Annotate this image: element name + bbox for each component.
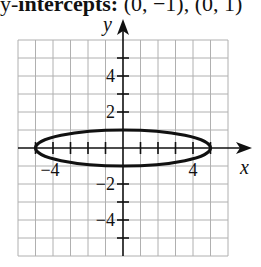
x-axis-label: x — [239, 156, 249, 178]
y-axis-label: y — [101, 13, 112, 36]
x-tick-label-4: 4 — [189, 160, 198, 180]
y-tick-label-4: 4 — [106, 66, 115, 86]
x-tick-label-neg4: −4 — [40, 160, 59, 180]
y-tick-label-2: 2 — [106, 102, 115, 122]
y-tick-label-neg2: −2 — [96, 174, 115, 194]
coordinate-plane: 4 2 −2 −4 −4 4 x y — [0, 0, 261, 267]
y-tick-label-neg4: −4 — [96, 210, 115, 230]
